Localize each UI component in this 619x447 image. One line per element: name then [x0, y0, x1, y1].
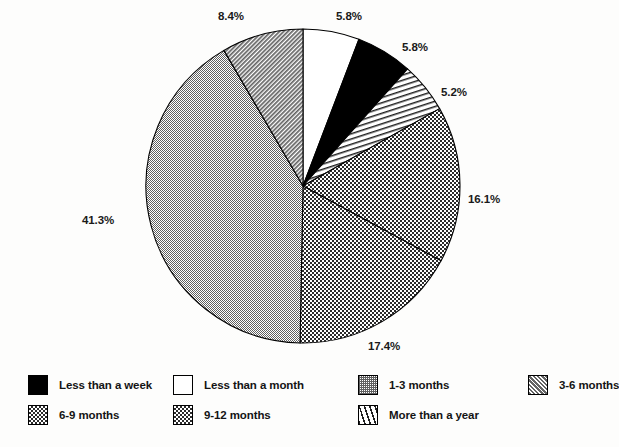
chart-legend: Less than a weekLess than a month1-3 mon…	[28, 370, 588, 430]
legend-item[interactable]: 6-9 months	[28, 400, 119, 430]
legend-swatch-icon	[173, 405, 193, 425]
pie-slice-percentage-label: 17.4%	[368, 340, 400, 352]
pie-slice-percentage-label: 8.4%	[218, 10, 244, 22]
legend-swatch-icon	[28, 375, 48, 395]
legend-swatch-icon	[358, 375, 378, 395]
legend-swatch-icon	[28, 405, 48, 425]
legend-label: Less than a week	[59, 379, 152, 391]
pie-slices	[146, 29, 460, 343]
pie-slice-percentage-label: 5.8%	[402, 41, 428, 53]
legend-swatch-icon	[528, 375, 548, 395]
legend-label: More than a year	[389, 409, 479, 421]
legend-label: 1-3 months	[389, 379, 449, 391]
legend-item[interactable]: 3-6 months	[528, 370, 619, 400]
legend-label: 9-12 months	[204, 409, 271, 421]
legend-swatch-icon	[358, 405, 378, 425]
legend-item[interactable]: Less than a week	[28, 370, 152, 400]
legend-item[interactable]: Less than a month	[173, 370, 304, 400]
pie-slice-percentage-label: 5.2%	[441, 86, 467, 98]
legend-item[interactable]: More than a year	[358, 400, 479, 430]
pie-slice-percentage-label: 5.8%	[336, 10, 362, 22]
legend-swatch-icon	[173, 375, 193, 395]
legend-label: Less than a month	[204, 379, 304, 391]
legend-item[interactable]: 1-3 months	[358, 370, 449, 400]
pie-slice-percentage-label: 16.1%	[468, 193, 500, 205]
legend-item[interactable]: 9-12 months	[173, 400, 271, 430]
legend-label: 3-6 months	[559, 379, 619, 391]
legend-label: 6-9 months	[59, 409, 119, 421]
legend-row: 6-9 months9-12 monthsMore than a year	[28, 400, 588, 430]
pie-slice-percentage-label: 41.3%	[82, 214, 114, 226]
legend-row: Less than a weekLess than a month1-3 mon…	[28, 370, 588, 400]
